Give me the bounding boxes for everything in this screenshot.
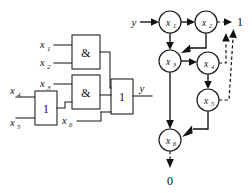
arrowhead-x1-x2 [187,18,195,26]
circuit-input-x6-sub: 6 [69,121,73,129]
node-x6-label: x [165,136,171,146]
circuit-input-x1: x 1 [39,39,51,53]
arrowhead-x5-x6 [182,126,193,138]
node-x2-label: x [201,18,207,28]
and-gate-top-label: & [81,46,91,60]
graph-node-x4[interactable]: x 4 [197,52,219,74]
edge-x2-x3 [190,33,206,48]
arrowhead-x1-x3 [166,42,174,50]
node-x5-label: x [203,96,209,106]
graph-node-x2[interactable]: x 2 [195,11,217,33]
circuit-input-x3: x 3 [39,78,51,92]
figure-svg: x 1 x 2 x 3 x 4 x 5 x 6 & [0,0,252,193]
terminal-one-label: 1 [237,15,243,29]
circuit-input-x6: x 6 [61,115,73,129]
circuit-output-label: y [139,82,145,94]
circuit-input-x5-label: x [9,117,15,128]
or-gate-left-label: 1 [43,102,49,116]
circuit-input-x2-sub: 2 [47,63,51,71]
edge-x4-terminal-one [219,44,226,63]
circuit-input-x6-label: x [61,115,67,126]
node-x3-label: x [165,57,171,67]
wire-x6 [77,112,101,121]
arrowhead-x2-one [224,18,232,26]
circuit-input-x3-label: x [39,78,45,89]
circuit-diagram: x 1 x 2 x 3 x 4 x 5 x 6 & [9,35,152,131]
arrowhead-x5-one [229,29,237,38]
circuit-input-x5-sub: 5 [17,123,21,131]
node-x1-label: x [165,18,171,28]
and-gate-middle-label: & [81,86,91,100]
circuit-input-x5: x 5 [9,117,21,131]
arrowhead-input-x1 [151,18,159,26]
node-x3-sub: 3 [172,61,176,68]
graph-node-x1[interactable]: x 1 [159,11,181,33]
circuit-input-x1-sub: 1 [47,45,51,53]
circuit-input-x4-label: x [9,85,15,96]
arrowhead-x6-zero [166,159,174,168]
graph-node-x3[interactable]: x 3 [159,50,181,72]
arrowhead-x3-x4 [189,58,197,66]
terminal-zero-label: 0 [167,174,173,188]
graph-diagram: y [131,11,243,188]
circuit-input-x2-label: x [39,57,45,68]
circuit-input-x1-label: x [39,39,45,50]
arrowhead-x4-one [222,33,230,42]
graph-input-label: y [131,16,137,28]
node-x4-label: x [203,59,209,69]
or-gate-output-label: 1 [119,90,125,104]
arrowhead-x2-x3 [181,45,191,54]
wire-orleft-to-andmid [57,102,72,108]
circuit-input-x2: x 2 [39,57,51,71]
graph-node-x5[interactable]: x 5 [197,89,219,111]
wire-andtop-to-or [100,52,111,88]
circuit-input-x4-sub: 4 [17,91,21,99]
edge-x5-x6 [193,111,208,129]
arrowhead-x4-x5 [204,81,212,89]
node-x1-sub: 1 [173,22,176,29]
node-x5-sub: 5 [211,100,214,107]
arrowhead-x3-x6 [166,120,174,129]
figure-canvas: x 1 x 2 x 3 x 4 x 5 x 6 & [0,0,252,193]
graph-node-x6[interactable]: x 6 [159,129,181,151]
